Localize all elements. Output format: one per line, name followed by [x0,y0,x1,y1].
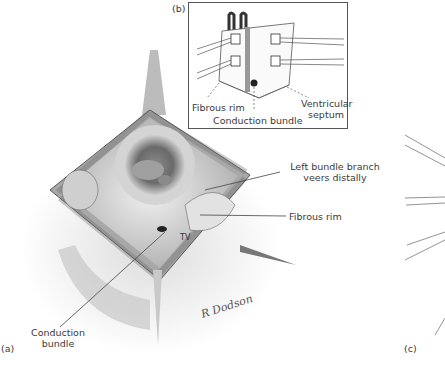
panel-label-b: (b) [172,3,185,14]
left-bundle-branch-line1: Left bundle branch [280,161,390,172]
fibrous-rim-label-a: Fibrous rim [289,211,342,222]
conduction-bundle-label-b: Conduction bundle [213,115,303,126]
panel-b-inset: Fibrous rim Ventricular septum Conductio… [188,2,348,129]
conduction-bundle-line1: Conduction [28,327,88,338]
conduction-bundle-line2: bundle [28,338,88,349]
panel-label-a: (a) [1,343,14,354]
ventricular-septum-line2: septum [301,109,351,120]
tv-label: TV [180,232,190,243]
left-bundle-branch-line2: veers distally [280,172,390,183]
ventricular-septum-line1: Ventricular [301,98,351,109]
ventricular-septum-label: Ventricular septum [301,98,351,120]
conduction-bundle-label-a: Conduction bundle [28,327,88,349]
left-bundle-branch-label: Left bundle branch veers distally [280,161,390,183]
fibrous-rim-label-b: Fibrous rim [192,102,245,113]
panel-label-c: (c) [404,343,417,354]
